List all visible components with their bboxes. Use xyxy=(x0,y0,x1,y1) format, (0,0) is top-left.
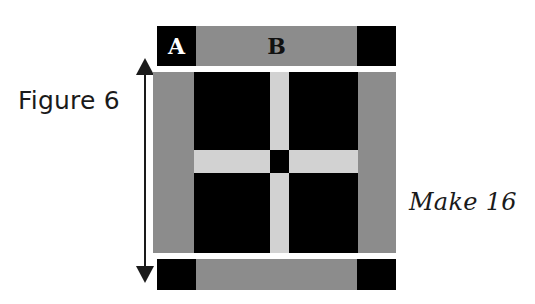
figure-diagram: Figure 6 A B Make 16 xyxy=(0,0,535,304)
strip-top-segment-c xyxy=(357,26,396,66)
strip-bottom-segment-b xyxy=(196,259,357,290)
strip-bottom xyxy=(157,259,396,290)
make-quantity-label: Make 16 xyxy=(409,188,517,216)
strip-bottom-segment-c xyxy=(357,259,396,290)
strip-top: A B xyxy=(157,26,396,66)
block-border-right xyxy=(358,72,396,253)
strip-top-segment-b: B xyxy=(196,26,357,66)
strip-label-b: B xyxy=(196,35,357,57)
block-center-square xyxy=(270,150,289,173)
strip-label-a: A xyxy=(157,35,196,57)
figure-caption: Figure 6 xyxy=(18,86,120,115)
block-border-left xyxy=(153,72,194,253)
strip-bottom-segment-a xyxy=(157,259,196,290)
quilt-block xyxy=(153,72,396,253)
strip-top-segment-a: A xyxy=(157,26,196,66)
